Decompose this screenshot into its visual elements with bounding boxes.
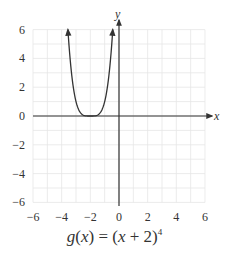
graph: x y −6−4−202466420−2−4−6 — [0, 0, 229, 254]
y-tick-label: 0 — [19, 109, 25, 123]
function-caption: g(x) = (x + 2)4 — [0, 227, 229, 247]
x-tick-label: 4 — [173, 210, 179, 224]
x-tick-label: 0 — [116, 210, 122, 224]
x-tick-label: −2 — [84, 210, 97, 224]
x-tick-label: −4 — [55, 210, 68, 224]
y-axis-label: y — [114, 7, 121, 21]
y-tick-label: 6 — [19, 23, 25, 37]
y-tick-label: 4 — [19, 51, 25, 65]
x-axis-label: x — [213, 109, 220, 123]
y-tick-label: −4 — [12, 167, 25, 181]
axes: x y — [33, 7, 220, 206]
y-tick-label: −6 — [12, 195, 25, 209]
x-tick-label: −6 — [27, 210, 40, 224]
tick-labels: −6−4−202466420−2−4−6 — [12, 23, 208, 224]
x-tick-label: 2 — [145, 210, 151, 224]
y-tick-label: 2 — [19, 80, 25, 94]
x-tick-label: 6 — [202, 210, 208, 224]
y-tick-label: −2 — [12, 138, 25, 152]
